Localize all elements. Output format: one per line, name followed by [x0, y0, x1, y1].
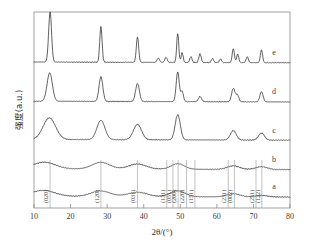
x-tick-label: 30: [103, 212, 111, 221]
x-tick-label: 60: [213, 212, 221, 221]
miller-index-label: (122): [255, 190, 262, 203]
miller-index-label: (151): [188, 190, 195, 203]
series-label-a: a: [272, 182, 276, 191]
series-label-d: d: [272, 87, 276, 96]
series-label-e: e: [272, 48, 276, 57]
xrd-figure: 10203040506070802θ/(°)强度(a.u.)abcde(020)…: [0, 0, 309, 248]
x-tick-label: 80: [286, 212, 294, 221]
miller-index-label: (020): [43, 190, 50, 203]
x-tick-label: 50: [176, 212, 184, 221]
miller-index-label: (031): [130, 190, 137, 203]
miller-index-label: (120): [94, 190, 101, 203]
series-label-b: b: [272, 155, 276, 164]
xrd-trace-c: [34, 115, 290, 141]
xrd-trace-e: [34, 12, 290, 63]
xrd-trace-b: [34, 162, 290, 170]
miller-index-label: (002): [227, 190, 234, 203]
series-label-c: c: [272, 126, 276, 135]
x-tick-label: 10: [30, 212, 38, 221]
x-tick-label: 20: [67, 212, 75, 221]
x-axis-title: 2θ/(°): [152, 227, 173, 237]
x-tick-label: 40: [140, 212, 148, 221]
xrd-plot-svg: 10203040506070802θ/(°)强度(a.u.)abcde(020)…: [0, 0, 309, 248]
miller-index-label: (220): [179, 190, 186, 203]
plot-frame: [34, 12, 290, 208]
y-axis-title: 强度(a.u.): [14, 90, 24, 131]
x-tick-label: 70: [249, 212, 257, 221]
miller-index-label: (200): [171, 190, 178, 203]
xrd-trace-d: [34, 72, 290, 102]
